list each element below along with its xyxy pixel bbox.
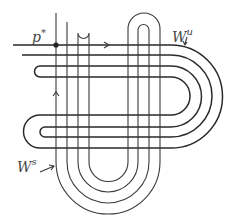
fixed-point-dot: [53, 42, 58, 47]
stable-manifold-label: Ws: [17, 156, 37, 175]
unstable-manifold: [13, 45, 223, 148]
stable-pointer-arrow-icon: [40, 165, 54, 172]
stable-manifold: [56, 13, 160, 214]
unstable-manifold-label: Wu: [172, 26, 193, 45]
fixed-point-label: p*: [32, 27, 46, 45]
manifold-diagram: p* Wu Ws: [0, 0, 235, 223]
